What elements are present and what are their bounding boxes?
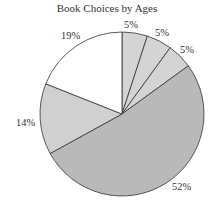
label-slice-6: 19% (61, 30, 80, 41)
label-slice-5: 14% (16, 117, 35, 128)
label-slice-4: 52% (172, 181, 191, 192)
pie-chart (0, 0, 214, 205)
label-slice-2: 5% (155, 27, 169, 38)
label-slice-3: 5% (180, 44, 194, 55)
label-slice-1: 5% (124, 19, 138, 30)
